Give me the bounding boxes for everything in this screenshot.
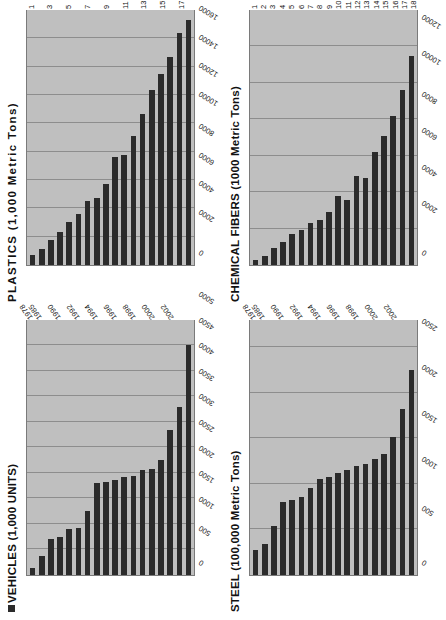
category-axis-tick-label: 10 bbox=[334, 1, 343, 9]
bar bbox=[112, 480, 118, 575]
bar bbox=[335, 196, 341, 265]
bar-row bbox=[74, 10, 83, 265]
bar-row bbox=[175, 10, 184, 265]
value-axis-labels: 02000400060008000100001200014000 bbox=[418, 10, 444, 266]
value-axis-tick-label: 3000 bbox=[197, 392, 216, 408]
bar bbox=[354, 466, 360, 575]
bar bbox=[344, 200, 350, 265]
bar-row bbox=[269, 320, 278, 575]
category-axis-tick-label: 11 bbox=[120, 1, 129, 9]
category-axis-tick-label: 13 bbox=[139, 1, 148, 9]
bar-row bbox=[111, 10, 120, 265]
bar-row bbox=[279, 320, 288, 575]
bar bbox=[390, 116, 396, 265]
bar-row bbox=[184, 10, 193, 265]
chart-grid: VEHICLES (1,000 UNITS)050010001500200025… bbox=[0, 0, 446, 620]
bar bbox=[326, 212, 332, 265]
bar bbox=[381, 454, 387, 575]
chart-title: CHEMICAL FIBERS (1000 Metric Tons) bbox=[229, 86, 241, 302]
bar-row bbox=[74, 320, 83, 575]
value-axis-tick-label: 0 bbox=[197, 558, 205, 568]
value-axis-tick-label: 0 bbox=[420, 558, 428, 568]
bar bbox=[76, 214, 82, 265]
bar-row bbox=[120, 10, 129, 265]
category-axis-tick-label: 15 bbox=[381, 1, 390, 9]
bar bbox=[289, 500, 295, 575]
bar-row bbox=[315, 320, 324, 575]
value-axis-tick-label: 10000 bbox=[197, 89, 219, 108]
value-axis-tick-label: 6000 bbox=[197, 150, 216, 166]
bar bbox=[390, 437, 396, 575]
bar-row bbox=[65, 10, 74, 265]
bar bbox=[280, 502, 286, 575]
bar bbox=[271, 526, 277, 575]
bar bbox=[262, 256, 268, 265]
value-axis-tick-label: 8000 bbox=[197, 122, 216, 138]
value-axis-tick-label: 1500 bbox=[197, 469, 216, 485]
bar-row bbox=[92, 10, 101, 265]
category-axis-tick-label: 15 bbox=[158, 1, 167, 9]
bar bbox=[94, 483, 100, 575]
value-axis-tick-label: 2500 bbox=[420, 317, 439, 333]
panel-steel: STEEL (100,000 Metric Tons)0500100015002… bbox=[223, 310, 446, 620]
bar-row bbox=[297, 10, 306, 265]
bar-row bbox=[83, 10, 92, 265]
bar bbox=[363, 178, 369, 265]
chart-title: VEHICLES (1,000 UNITS) bbox=[6, 464, 18, 612]
value-axis-tick-label: 1500 bbox=[420, 409, 439, 425]
value-axis-tick-label: 2000 bbox=[420, 363, 439, 379]
bar-row bbox=[343, 10, 352, 265]
bar-row bbox=[260, 320, 269, 575]
bar bbox=[344, 470, 350, 575]
bar-row bbox=[156, 320, 165, 575]
plot-area: 0200040006000800010000120001400012345678… bbox=[249, 10, 418, 266]
bar-row bbox=[46, 10, 55, 265]
chart-chemical-fibers: CHEMICAL FIBERS (1000 Metric Tons)020004… bbox=[223, 0, 446, 310]
value-axis-tick-label: 500 bbox=[197, 524, 212, 538]
bar-row bbox=[129, 320, 138, 575]
category-axis-tick-label: 11 bbox=[343, 1, 352, 9]
bar-row bbox=[260, 10, 269, 265]
panel-plastics: PLASTICS (1,000 Metric Tons)020004000600… bbox=[0, 0, 223, 310]
plot-background bbox=[249, 10, 418, 266]
plot-area: 0500100015002000250030003500400045005000… bbox=[26, 320, 195, 576]
bar-row bbox=[315, 10, 324, 265]
category-axis-labels: 1357911131517 bbox=[26, 0, 195, 10]
legend-swatch-icon bbox=[8, 605, 15, 612]
bar bbox=[253, 260, 259, 265]
bar bbox=[140, 470, 146, 575]
plot-area: 0500100015002000250019781985199019921994… bbox=[249, 320, 418, 576]
bar bbox=[131, 476, 137, 575]
category-axis-tick-label: 14 bbox=[371, 1, 380, 9]
category-axis-tick-label: 13 bbox=[362, 1, 371, 9]
value-axis-tick-label: 1000 bbox=[197, 494, 216, 510]
bar bbox=[39, 556, 45, 575]
bar bbox=[317, 220, 323, 265]
bar bbox=[299, 230, 305, 265]
bar-row bbox=[334, 10, 343, 265]
bar-series bbox=[250, 10, 417, 265]
chart-vehicles: VEHICLES (1,000 UNITS)050010001500200025… bbox=[0, 310, 223, 620]
bar bbox=[372, 152, 378, 265]
chart-plastics: PLASTICS (1,000 Metric Tons)020004000600… bbox=[0, 0, 223, 310]
bar bbox=[372, 459, 378, 575]
category-axis-tick-label: 1 bbox=[26, 5, 35, 9]
bar-row bbox=[166, 320, 175, 575]
category-axis-tick-label: 8 bbox=[315, 5, 324, 9]
bar-row bbox=[334, 320, 343, 575]
chart-title-text: STEEL (100,000 Metric Tons) bbox=[229, 450, 241, 612]
bar-row bbox=[306, 320, 315, 575]
bar-row bbox=[343, 320, 352, 575]
bar bbox=[409, 370, 415, 575]
bar-row bbox=[251, 10, 260, 265]
bar-row bbox=[370, 10, 379, 265]
page-canvas: VEHICLES (1,000 UNITS)050010001500200025… bbox=[0, 0, 446, 620]
bar bbox=[335, 473, 341, 575]
chart-title: PLASTICS (1,000 Metric Tons) bbox=[6, 102, 18, 302]
category-axis-tick-label: 5 bbox=[64, 5, 73, 9]
plot-background bbox=[26, 10, 195, 266]
panel-vehicles: VEHICLES (1,000 UNITS)050010001500200025… bbox=[0, 310, 223, 620]
bar-row bbox=[398, 10, 407, 265]
bar bbox=[253, 550, 259, 575]
bar bbox=[177, 407, 183, 575]
